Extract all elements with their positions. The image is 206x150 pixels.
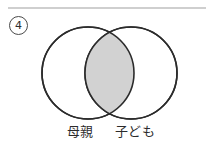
venn-label-row: 母親 子ども — [0, 122, 206, 146]
venn-label-right: 子ども — [104, 122, 166, 142]
venn-diagram-figure: 4 母親 子ども — [0, 0, 206, 150]
venn-label-left: 母親 — [58, 122, 102, 142]
